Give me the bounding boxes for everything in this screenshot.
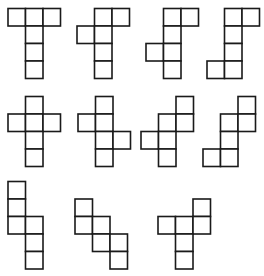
net-square [164,61,182,79]
net-square [164,9,182,27]
net-square [95,61,113,79]
cube-net-9 [8,182,43,270]
cube-nets-diagram [0,0,264,276]
net-square [164,26,182,44]
net-square [158,217,176,235]
net-square [141,132,159,150]
cube-net-4 [207,9,260,79]
cube-net-8 [203,97,256,167]
net-square [113,132,131,150]
net-square [242,9,260,27]
net-square [110,252,128,270]
net-square [96,149,114,167]
net-square [159,132,177,150]
net-square [112,9,130,27]
net-square [26,114,44,132]
net-square [26,132,44,150]
net-square [146,44,164,62]
net-square [26,44,44,62]
cube-net-11 [158,199,211,269]
net-square [43,114,61,132]
net-square [26,252,44,270]
net-square [225,61,243,79]
net-square [95,26,113,44]
cube-net-3 [146,9,199,79]
net-square [225,9,243,27]
net-square [43,9,61,27]
net-square [159,149,177,167]
net-square [207,61,225,79]
cube-net-2 [77,9,130,79]
cube-net-5 [8,97,61,167]
net-square [203,149,221,167]
net-square [221,114,239,132]
net-square [193,199,211,217]
net-square [176,252,194,270]
net-square [225,26,243,44]
net-square [75,217,93,235]
net-square [159,114,177,132]
net-square [26,234,44,252]
net-square [8,182,26,200]
net-square [95,44,113,62]
net-square [93,234,111,252]
net-square [78,114,96,132]
net-square [8,199,26,217]
net-square [26,61,44,79]
cube-net-7 [141,97,194,167]
net-square [221,132,239,150]
net-square [75,199,93,217]
net-square [8,114,26,132]
net-square [26,26,44,44]
net-square [96,132,114,150]
net-square [8,217,26,235]
net-square [77,26,95,44]
net-square [164,44,182,62]
net-square [221,149,239,167]
cube-net-1 [8,9,61,79]
net-square [8,9,26,27]
net-square [238,114,256,132]
cube-net-6 [78,97,131,167]
net-square [110,234,128,252]
net-square [93,217,111,235]
net-square [95,9,113,27]
cube-net-10 [75,199,128,269]
net-square [26,97,44,115]
net-square [96,114,114,132]
net-square [26,149,44,167]
net-square [176,114,194,132]
net-square [96,97,114,115]
net-square [26,217,44,235]
net-square [26,9,44,27]
net-square [176,234,194,252]
net-square [176,97,194,115]
net-square [193,217,211,235]
net-square [181,9,199,27]
net-square [238,97,256,115]
net-square [176,217,194,235]
net-square [225,44,243,62]
